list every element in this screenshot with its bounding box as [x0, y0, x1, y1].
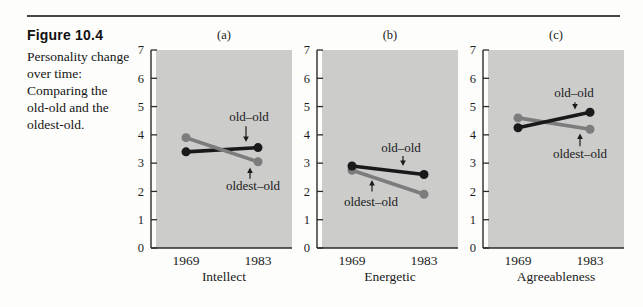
chart-panel-b: (b)0123456719691983Energeticold–oldoldes… [297, 26, 463, 288]
figure-caption-block: Figure 10.4 Personality changeover time:… [27, 27, 139, 133]
data-point-old-old [254, 143, 263, 152]
annotation-label: oldest–old [553, 146, 608, 161]
y-tick-label: 4 [304, 128, 311, 142]
x-tick-label: 1983 [245, 253, 272, 268]
chart-panel-c: (c)0123456719691983Agreeablenessold–oldo… [463, 26, 629, 288]
y-tick-label: 1 [304, 213, 310, 227]
chart-panel-a: (a)0123456719691983Intellectold–oldoldes… [131, 26, 297, 288]
y-tick-label: 5 [470, 100, 476, 114]
y-tick-label: 6 [304, 72, 310, 86]
x-tick-label: 1969 [505, 253, 532, 268]
data-point-oldest-old [586, 125, 595, 134]
y-tick-label: 3 [470, 156, 476, 170]
y-tick-label: 5 [138, 100, 144, 114]
data-point-old-old [420, 170, 429, 179]
y-tick-label: 7 [138, 43, 144, 57]
y-tick-label: 1 [470, 213, 476, 227]
y-tick-label: 6 [470, 72, 476, 86]
x-axis-title: Agreeableness [517, 269, 596, 284]
panel-label: (b) [383, 28, 398, 42]
data-point-oldest-old [182, 133, 191, 142]
caption-line: Personality change [27, 48, 139, 65]
data-point-old-old [586, 108, 595, 117]
y-tick-label: 7 [304, 43, 310, 57]
y-tick-label: 3 [138, 156, 144, 170]
annotation-label: oldest–old [226, 178, 281, 193]
caption-line: oldest-old. [27, 116, 139, 133]
annotation-label: oldest–old [344, 194, 399, 209]
annotation-label: old–old [229, 109, 269, 124]
x-tick-label: 1969 [339, 253, 366, 268]
y-tick-label: 1 [138, 213, 144, 227]
data-point-oldest-old [420, 190, 429, 199]
data-point-old-old [182, 147, 191, 156]
annotation-label: old–old [381, 140, 421, 155]
y-tick-label: 2 [304, 185, 310, 199]
y-tick-label: 2 [138, 185, 144, 199]
caption-line: old-old and the [27, 99, 139, 116]
y-tick-label: 5 [304, 100, 310, 114]
panel-label: (c) [549, 28, 563, 42]
y-tick-label: 7 [470, 43, 476, 57]
x-tick-label: 1969 [173, 253, 200, 268]
y-tick-label: 2 [470, 185, 476, 199]
annotation-label: old–old [554, 85, 594, 100]
y-tick-label: 3 [304, 156, 310, 170]
figure-number-label: Figure 10.4 [27, 27, 139, 43]
top-rule-divider [27, 15, 620, 17]
panel-label: (a) [217, 28, 231, 42]
figure-caption-text: Personality changeover time:Comparing th… [27, 48, 139, 133]
data-point-old-old [348, 161, 357, 170]
x-axis-title: Intellect [202, 269, 246, 284]
data-point-oldest-old [254, 157, 263, 166]
data-point-old-old [514, 123, 523, 132]
x-tick-label: 1983 [411, 253, 438, 268]
x-tick-label: 1983 [577, 253, 604, 268]
figure-page: Figure 10.4 Personality changeover time:… [0, 0, 643, 307]
data-point-oldest-old [514, 113, 523, 122]
y-tick-label: 6 [138, 72, 144, 86]
x-axis-title: Energetic [364, 269, 415, 284]
y-tick-label: 4 [138, 128, 145, 142]
charts-row: (a)0123456719691983Intellectold–oldoldes… [131, 26, 629, 288]
y-tick-label: 0 [304, 241, 310, 255]
caption-line: Comparing the [27, 82, 139, 99]
y-tick-label: 4 [470, 128, 477, 142]
y-tick-label: 0 [470, 241, 476, 255]
y-tick-label: 0 [138, 241, 144, 255]
caption-line: over time: [27, 65, 139, 82]
